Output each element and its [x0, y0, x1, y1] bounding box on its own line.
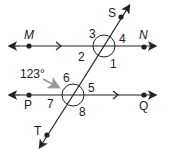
label-s: S [108, 6, 116, 20]
point-t [44, 132, 49, 137]
angle-4: 4 [119, 32, 126, 46]
point-s [118, 14, 123, 19]
angle-2: 2 [78, 50, 85, 64]
point-p [26, 92, 31, 97]
point-m [26, 43, 31, 48]
angle-6: 6 [63, 71, 70, 85]
angle-3: 3 [89, 27, 96, 41]
callout-arrow-icon [43, 79, 58, 87]
angle-8: 8 [79, 105, 86, 119]
point-n [141, 44, 146, 49]
line-mn [10, 42, 155, 50]
label-n: N [139, 28, 148, 42]
label-m: M [24, 28, 34, 42]
angle-5: 5 [88, 81, 95, 95]
angle-7: 7 [47, 97, 54, 111]
label-q: Q [139, 99, 148, 113]
label-p: P [24, 98, 32, 112]
given-angle-label: 123° [20, 67, 45, 81]
transversal-st [40, 6, 129, 147]
point-q [141, 92, 146, 97]
diagram-canvas: M N P Q S T 1 2 3 4 5 6 7 8 123° [0, 0, 173, 158]
label-t: T [34, 124, 42, 138]
angle-1: 1 [110, 57, 117, 71]
